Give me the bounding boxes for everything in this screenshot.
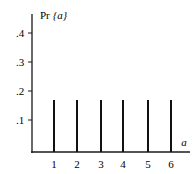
x-tick-labels: 1 2 3 4 5 6 bbox=[51, 158, 174, 170]
x-tick-label: 4 bbox=[120, 158, 126, 170]
x-tick-label: 6 bbox=[168, 158, 174, 170]
x-axis-title: a bbox=[181, 136, 187, 148]
y-tick-label: .3 bbox=[16, 56, 25, 68]
y-axis-title: Pr{a} bbox=[40, 9, 68, 21]
y-tick-label: .4 bbox=[16, 27, 25, 39]
x-tick-label: 1 bbox=[51, 158, 57, 170]
y-tick-label: .1 bbox=[16, 114, 24, 126]
probability-chart: .4 .3 .2 .1 Pr{a} 1 2 3 4 5 6 a bbox=[0, 0, 195, 174]
y-tick-label: .2 bbox=[16, 85, 24, 97]
x-tick-label: 2 bbox=[74, 158, 80, 170]
x-tick-label: 5 bbox=[145, 158, 151, 170]
y-tick-labels: .4 .3 .2 .1 bbox=[16, 27, 25, 126]
x-tick-label: 3 bbox=[98, 158, 104, 170]
bars bbox=[54, 100, 171, 152]
